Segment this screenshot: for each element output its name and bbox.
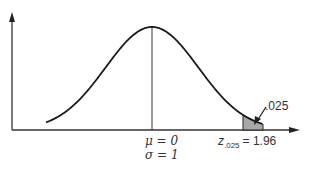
x-axis-arrow-icon — [289, 127, 300, 133]
sigma-label: σ = 1 — [145, 148, 179, 162]
normal-curve — [46, 27, 262, 124]
z-subscript: .025 — [224, 141, 240, 150]
z-symbol: z — [217, 134, 224, 148]
normal-curve-chart: .025 μ = 0 σ = 1 z.025= 1.96 — [0, 0, 312, 171]
tail-area-label: .025 — [265, 99, 289, 113]
z-value: = 1.96 — [243, 134, 277, 148]
y-axis-arrow-icon — [9, 12, 15, 22]
z-label: z.025= 1.96 — [217, 134, 277, 150]
mu-label: μ = 0 — [145, 134, 178, 148]
